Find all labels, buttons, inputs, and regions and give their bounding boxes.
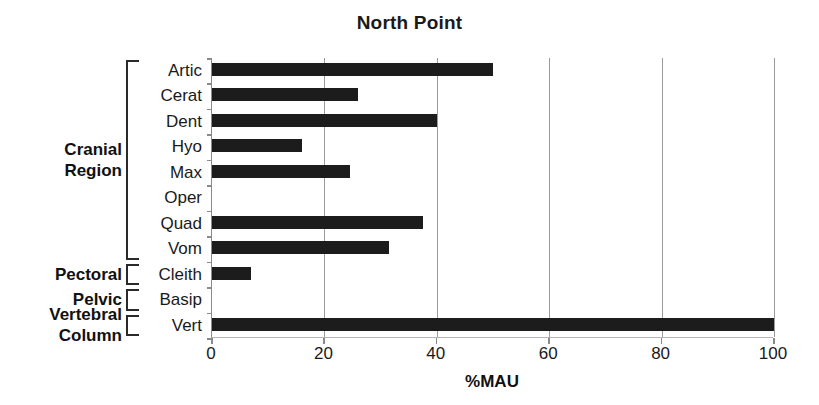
y-tick-mark <box>207 262 212 264</box>
bar-row <box>212 134 774 159</box>
y-tick-mark <box>207 313 212 315</box>
y-tick-mark <box>207 185 212 187</box>
y-tick-mark <box>207 83 212 85</box>
category-label-cerat: Cerat <box>90 83 202 108</box>
x-tick-mark-0 <box>211 338 213 344</box>
x-axis-title: %MAU <box>211 372 773 392</box>
x-tick-label-40: 40 <box>406 344 466 364</box>
bar-row <box>212 211 774 236</box>
x-tick-mark-60 <box>548 338 550 344</box>
chart-title: North Point <box>0 12 819 34</box>
bar-row <box>212 160 774 185</box>
bar-row <box>212 185 774 210</box>
category-label-dent: Dent <box>90 109 202 134</box>
bar-row <box>212 262 774 287</box>
bar-row <box>212 313 774 338</box>
bar-cleith <box>212 267 251 280</box>
x-tick-label-0: 0 <box>181 344 241 364</box>
category-label-vom: Vom <box>90 236 202 261</box>
x-tick-label-20: 20 <box>293 344 353 364</box>
x-tick-mark-80 <box>661 338 663 344</box>
gridline-100 <box>774 58 775 337</box>
y-tick-mark <box>207 58 212 60</box>
category-label-max: Max <box>90 160 202 185</box>
bar-cerat <box>212 88 358 101</box>
y-tick-mark <box>207 134 212 136</box>
bar-vom <box>212 241 389 254</box>
x-tick-label-100: 100 <box>743 344 803 364</box>
y-tick-mark <box>207 109 212 111</box>
bar-row <box>212 58 774 83</box>
x-tick-mark-40 <box>436 338 438 344</box>
bar-row <box>212 236 774 261</box>
category-label-column: ArticCeratDentHyoMaxOperQuadVomCleithBas… <box>90 58 202 338</box>
x-tick-label-80: 80 <box>631 344 691 364</box>
bar-quad <box>212 216 423 229</box>
category-label-artic: Artic <box>90 58 202 83</box>
bar-row <box>212 109 774 134</box>
bar-row <box>212 287 774 312</box>
bar-chart-north-point: North Point CranialRegionPectoralPelvicV… <box>0 0 819 405</box>
category-label-oper: Oper <box>90 185 202 210</box>
category-label-cleith: Cleith <box>90 262 202 287</box>
bar-row <box>212 83 774 108</box>
plot-area <box>211 58 773 338</box>
category-label-quad: Quad <box>90 211 202 236</box>
y-tick-mark <box>207 287 212 289</box>
category-label-hyo: Hyo <box>90 134 202 159</box>
bar-max <box>212 165 350 178</box>
x-tick-label-60: 60 <box>518 344 578 364</box>
x-tick-mark-100 <box>773 338 775 344</box>
category-label-vert: Vert <box>90 313 202 338</box>
y-tick-mark <box>207 160 212 162</box>
bar-dent <box>212 114 437 127</box>
x-axis-tick-labels: 020406080100 <box>211 344 773 368</box>
y-tick-mark <box>207 236 212 238</box>
category-label-basip: Basip <box>90 287 202 312</box>
bar-artic <box>212 63 493 76</box>
bar-vert <box>212 318 774 331</box>
x-tick-mark-20 <box>323 338 325 344</box>
bar-hyo <box>212 139 302 152</box>
y-tick-mark <box>207 211 212 213</box>
